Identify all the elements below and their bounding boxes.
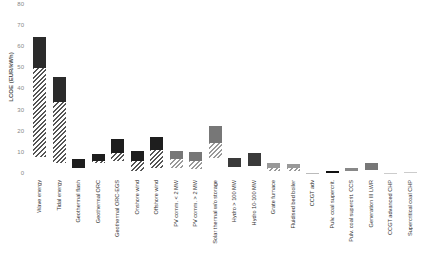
- x-tick-label: Pulv. coal supercrit. CCS: [348, 180, 354, 242]
- x-tick-label: PV comm. < 2 MW: [173, 180, 179, 227]
- bar-upper-segment: [228, 158, 241, 166]
- bar-pv-comm-2-mw: [170, 151, 183, 168]
- bar-lower-hatched-segment: [209, 143, 222, 158]
- bar-lower-hatched-segment: [267, 168, 280, 171]
- x-tick-label: Tidal energy: [56, 180, 62, 211]
- y-tick-70: 70: [4, 22, 24, 28]
- bar-upper-segment: [189, 152, 202, 162]
- bar-grate-furnace: [267, 163, 280, 170]
- bar-upper-segment: [306, 173, 319, 174]
- x-tick-label: Fluidised bed boiler: [290, 180, 296, 229]
- bar-upper-segment: [248, 153, 261, 166]
- bar-generation-iii-lwr: [365, 163, 378, 169]
- x-tick-label: Geothermal ORC-EGS: [114, 180, 120, 237]
- x-tick-label: Hydro > 100 MW: [231, 180, 237, 222]
- bar-upper-segment: [209, 126, 222, 143]
- bar-geothermal-flash: [72, 159, 85, 167]
- bar-lower-hatched-segment: [287, 168, 300, 171]
- bar-hydro-10-100-mw: [248, 153, 261, 166]
- x-tick-label: Wave energy: [36, 180, 42, 213]
- bar-lower-hatched-segment: [189, 161, 202, 168]
- bar-upper-segment: [365, 163, 378, 169]
- lcoe-bar-chart: LCOE (EUR/kWh) 01020304050607080 Wave en…: [0, 0, 425, 262]
- y-tick-20: 20: [4, 128, 24, 134]
- bar-upper-segment: [33, 37, 46, 69]
- x-tick-label: Hydro 10-100 MW: [251, 180, 257, 225]
- bar-upper-segment: [131, 151, 144, 162]
- y-tick-50: 50: [4, 64, 24, 70]
- y-tick-40: 40: [4, 85, 24, 91]
- bar-geothermal-orc-egs: [111, 139, 124, 161]
- bar-lower-hatched-segment: [33, 68, 46, 157]
- bar-pulv-coal-supercrit-: [326, 171, 339, 173]
- y-axis-label: LCOE (EUR/kWh): [8, 42, 14, 112]
- x-tick-label: Geothermal ORC: [95, 180, 101, 223]
- bar-upper-segment: [150, 137, 163, 150]
- x-tick-label: Pulv. coal supercrit.: [329, 180, 335, 228]
- bar-upper-segment: [53, 77, 66, 102]
- x-tick-label: Offshore wind: [153, 180, 159, 214]
- bar-lower-hatched-segment: [131, 161, 144, 171]
- bar-geothermal-orc: [92, 154, 105, 164]
- bar-solar-thermal-w-o-storage: [209, 126, 222, 158]
- x-tick-label: CCGT adv: [309, 180, 315, 206]
- bar-hydro-100-mw: [228, 158, 241, 166]
- bar-tidal-energy: [53, 77, 66, 164]
- bar-fluidised-bed-boiler: [287, 164, 300, 170]
- bar-upper-segment: [92, 154, 105, 161]
- bar-lower-hatched-segment: [111, 153, 124, 161]
- x-tick-label: CCGT advanced CHP: [387, 180, 393, 235]
- x-tick-label: Solar thermal w/o storage: [212, 180, 218, 244]
- x-tick-label: PV comm. > 2 MW: [192, 180, 198, 227]
- bar-offshore-wind: [150, 137, 163, 168]
- x-tick-label: Generation III LWR: [368, 180, 374, 227]
- y-tick-60: 60: [4, 43, 24, 49]
- y-tick-30: 30: [4, 107, 24, 113]
- y-tick-80: 80: [4, 1, 24, 7]
- bar-supercritical-coal-chp: [404, 172, 417, 173]
- bar-lower-hatched-segment: [92, 161, 105, 163]
- x-tick-label: Geothermal flash: [75, 180, 81, 223]
- x-tick-label: Grate furnace: [270, 180, 276, 214]
- y-tick-10: 10: [4, 149, 24, 155]
- bar-ccgt-advanced-chp: [384, 173, 397, 174]
- bar-upper-segment: [384, 173, 397, 174]
- x-tick-label: Onshore wind: [134, 180, 140, 215]
- bar-ccgt-adv: [306, 173, 319, 174]
- bar-pulv-coal-supercrit-ccs: [345, 168, 358, 171]
- y-tick-0: 0: [4, 170, 24, 176]
- bar-upper-segment: [404, 172, 417, 173]
- bar-lower-hatched-segment: [150, 150, 163, 168]
- bar-upper-segment: [111, 139, 124, 153]
- bar-onshore-wind: [131, 151, 144, 171]
- bar-wave-energy: [33, 37, 46, 158]
- bar-upper-segment: [326, 171, 339, 173]
- bar-upper-segment: [72, 159, 85, 167]
- bar-lower-hatched-segment: [170, 159, 183, 167]
- bar-pv-comm-2-mw: [189, 152, 202, 169]
- x-tick-label: Supercritical coal CHP: [407, 180, 413, 236]
- bar-upper-segment: [345, 168, 358, 171]
- bar-lower-hatched-segment: [53, 102, 66, 163]
- bar-upper-segment: [170, 151, 183, 159]
